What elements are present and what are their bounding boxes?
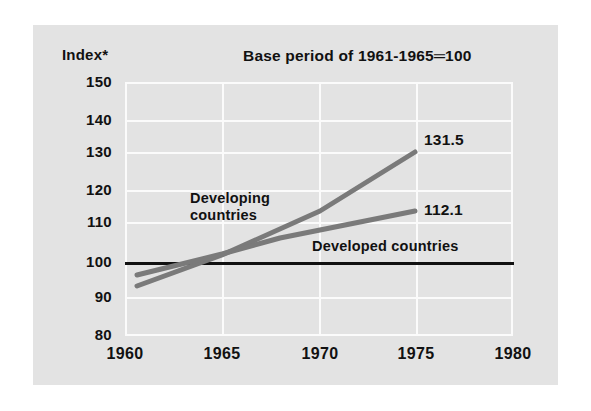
gridline-vertical [511,82,513,335]
series-label-developing-line2: countries [190,207,270,224]
chart-title: Base period of 1961-1965═100 [243,47,472,65]
series-value-developed-countries: 112.1 [424,201,463,219]
y-tick-label: 120 [56,181,112,198]
x-tick-label: 1970 [285,345,355,363]
y-tick-label: 130 [56,143,112,160]
baseline-100-reference-line [125,262,514,265]
x-tick-label: 1960 [90,345,160,363]
series-value-developing-countries: 131.5 [424,131,464,149]
x-tick-label: 1975 [381,345,451,363]
y-tick-label: 110 [56,213,112,230]
y-tick-label: 90 [56,288,112,305]
series-label-developing-line1: Developing [190,190,270,207]
series-label-developed-countries: Developed countries [312,238,458,255]
gridline-vertical [125,82,127,335]
gridline-vertical [416,82,418,335]
y-axis-title: Index* [62,46,108,63]
y-tick-label: 140 [56,111,112,128]
x-tick-label: 1980 [478,345,548,363]
x-tick-label: 1965 [187,345,257,363]
y-tick-label: 80 [56,326,112,343]
series-label-developing-countries: Developing countries [190,190,270,223]
gridline-vertical [319,82,321,335]
chart-figure: Index* Base period of 1961-1965═100 150 … [0,0,591,411]
y-tick-label: 150 [56,73,112,90]
y-tick-label: 100 [56,253,112,270]
